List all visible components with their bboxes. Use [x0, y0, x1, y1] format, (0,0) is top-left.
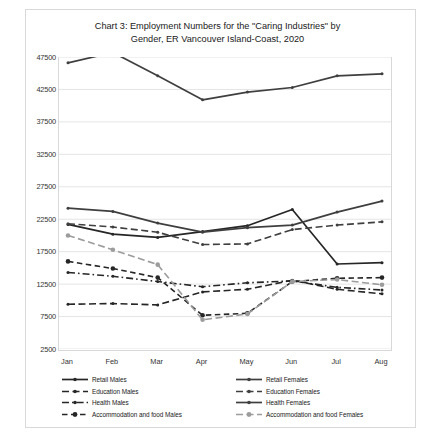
data-point: [156, 303, 159, 306]
data-point: [67, 303, 70, 306]
legend-marker-icon: [236, 387, 262, 396]
legend-item[interactable]: Accommodation and food Females: [236, 409, 363, 421]
data-point: [246, 91, 249, 94]
data-point: [67, 222, 70, 225]
data-point: [200, 318, 205, 323]
data-point: [246, 226, 249, 229]
data-point: [336, 286, 339, 289]
x-axis-tick-label: Jan: [47, 357, 87, 366]
plot-area: [58, 57, 392, 351]
data-point: [380, 275, 385, 280]
y-axis-tick-label: 22500: [22, 215, 56, 224]
data-point: [335, 277, 340, 282]
data-point: [111, 275, 114, 278]
data-point: [67, 61, 70, 64]
data-point: [380, 282, 385, 287]
legend-item-label: Education Males: [92, 388, 139, 395]
data-point: [336, 211, 339, 214]
chart-title: Chart 3: Employment Numbers for the "Car…: [45, 20, 390, 45]
y-axis-tick-label: 2500: [22, 345, 56, 354]
data-point: [381, 292, 384, 295]
data-point: [201, 285, 204, 288]
data-point: [291, 208, 294, 211]
legend-item-label: Health Males: [92, 399, 129, 406]
data-point: [336, 263, 339, 266]
data-point: [381, 220, 384, 223]
x-axis-tick-label: Jul: [316, 357, 356, 366]
data-point: [156, 74, 159, 77]
legend-item[interactable]: Education Males: [62, 386, 182, 398]
legend-column-females: Retail FemalesEducation FemalesHealth Fe…: [236, 374, 363, 420]
chart-title-line-1: Chart 3: Employment Numbers for the "Car…: [45, 20, 390, 33]
legend-item[interactable]: Accommodation and food Males: [62, 409, 182, 421]
data-point: [381, 200, 384, 203]
legend-marker-icon: [236, 375, 262, 384]
legend-item[interactable]: Health Males: [62, 397, 182, 409]
chart-canvas: [59, 57, 391, 349]
y-axis-tick-label: 42500: [22, 85, 56, 94]
series-line-2: [68, 272, 382, 290]
data-point: [111, 302, 114, 305]
data-point: [201, 231, 204, 234]
data-point: [245, 312, 250, 317]
data-point: [336, 224, 339, 227]
data-point: [291, 86, 294, 89]
chart-legend: Retail MalesEducation MalesHealth MalesA…: [58, 374, 398, 422]
data-point: [246, 242, 249, 245]
data-point: [246, 288, 249, 291]
data-point: [66, 259, 71, 264]
series-line-0: [68, 209, 382, 264]
legend-column-males: Retail MalesEducation MalesHealth MalesA…: [62, 374, 182, 420]
legend-item[interactable]: Retail Males: [62, 374, 182, 386]
legend-item[interactable]: Education Females: [236, 386, 363, 398]
y-axis-tick-label: 7500: [22, 312, 56, 321]
data-point: [67, 207, 70, 210]
data-point: [66, 233, 71, 238]
legend-marker-icon: [62, 387, 88, 396]
y-axis-tick-label: 37500: [22, 117, 56, 126]
y-axis-tick-label: 47500: [22, 53, 56, 62]
legend-marker-icon: [62, 398, 88, 407]
data-point: [381, 72, 384, 75]
data-point: [290, 279, 295, 284]
legend-item[interactable]: Health Females: [236, 397, 363, 409]
data-point: [156, 280, 159, 283]
data-point: [201, 290, 204, 293]
x-axis-tick-label: Mar: [137, 357, 177, 366]
y-axis-tick-label: 27500: [22, 182, 56, 191]
y-axis-tick-label: 17500: [22, 247, 56, 256]
legend-item-label: Accommodation and food Females: [266, 411, 363, 418]
series-line-7: [68, 235, 382, 319]
series-line-3: [68, 261, 382, 315]
data-point: [201, 243, 204, 246]
x-axis-tick-labels: JanFebMarAprMayJunJulAug: [58, 353, 392, 369]
legend-item[interactable]: Retail Females: [236, 374, 363, 386]
y-axis-tick-label: 32500: [22, 150, 56, 159]
data-point: [156, 222, 159, 225]
data-point: [111, 210, 114, 213]
x-axis-tick-label: Feb: [92, 357, 132, 366]
legend-item-label: Health Females: [266, 399, 310, 406]
data-point: [156, 231, 159, 234]
chart-figure: Chart 3: Employment Numbers for the "Car…: [0, 0, 431, 437]
data-point: [111, 266, 116, 271]
y-axis-tick-label: 12500: [22, 280, 56, 289]
x-axis-tick-label: Apr: [182, 357, 222, 366]
chart-title-line-2: Gender, ER Vancouver Island-Coast, 2020: [45, 33, 390, 46]
x-axis-tick-label: May: [226, 357, 266, 366]
series-line-6: [68, 57, 382, 100]
data-point: [201, 98, 204, 101]
data-point: [111, 247, 116, 252]
legend-marker-icon: [236, 398, 262, 407]
data-point: [155, 275, 160, 280]
data-point: [246, 281, 249, 284]
legend-item-label: Accommodation and food Males: [92, 411, 182, 418]
data-point: [381, 261, 384, 264]
legend-marker-icon: [62, 375, 88, 384]
legend-item-label: Retail Males: [92, 376, 127, 383]
legend-item-label: Retail Females: [266, 376, 308, 383]
data-point: [381, 288, 384, 291]
data-point: [336, 74, 339, 77]
data-point: [111, 226, 114, 229]
legend-marker-icon: [236, 410, 262, 419]
